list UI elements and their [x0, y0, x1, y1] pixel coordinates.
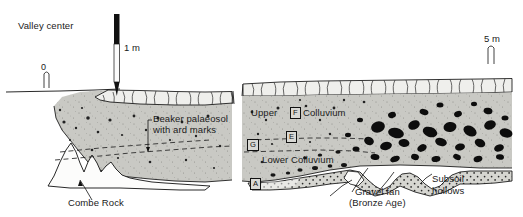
lower-colluvium-label: Lower Colluvium	[262, 154, 334, 166]
context-box-f: F	[290, 107, 301, 119]
context-box-g: G	[247, 139, 259, 151]
subsoil-hollows-label-line1: Subsoil	[432, 173, 464, 185]
subsoil-hollows-leader	[420, 174, 432, 184]
gravel-fan-label-line2: (Bronze Age)	[349, 197, 406, 209]
ploughsoil-left	[95, 90, 233, 105]
valley-center-label: Valley center	[18, 20, 74, 32]
origin-scale-marker	[44, 72, 49, 88]
gravel-fan-label-line1: Gravel fan	[355, 186, 400, 198]
context-box-e: E	[286, 131, 297, 143]
origin-scale-label: 0	[41, 62, 46, 72]
context-box-a: A	[250, 178, 261, 190]
vertical-scale-label: 1 m	[124, 42, 140, 54]
combe-rock-label: Combe Rock	[68, 197, 124, 209]
upper-colluvium-label-upper: Upper	[251, 107, 277, 119]
beaker-palaeosol-label-line2: with ard marks	[153, 124, 216, 136]
section-break	[233, 84, 243, 104]
colluvium-body-right	[242, 93, 512, 183]
upper-colluvium-label-colluvium: Colluvium	[303, 107, 346, 119]
horizontal-scale-label: 5 m	[484, 33, 500, 45]
horizontal-scale-marker	[488, 46, 494, 64]
beaker-palaeosol-label-line1: Beaker palaeosol	[153, 113, 228, 125]
section-drawing-figure: Valley center 1 m 0 5 m Beaker palaeosol…	[0, 0, 523, 217]
vertical-scale-rod	[114, 14, 120, 96]
subsoil-hollows-label-line2: hollows	[432, 185, 464, 197]
